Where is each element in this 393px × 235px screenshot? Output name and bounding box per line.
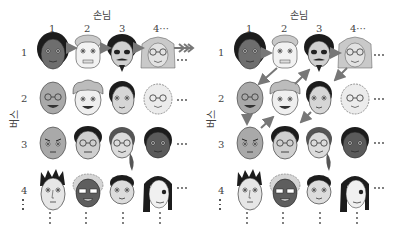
guests-header: 손님 [290,7,308,22]
face-r4c1 [40,169,65,210]
row-label-1: 1 [21,47,27,58]
face-r2c1 [40,82,66,114]
column-label-3: 3 [316,23,322,34]
left-panel: 손님 1 2 3 4··· 1 2 3 4 버스 [0,0,196,235]
face-r2c4 [144,84,172,114]
row-continuation-dots [22,199,24,213]
face-r2c3 [109,81,135,114]
row-label-4: 4 [21,185,27,196]
row1-arrows [68,44,193,52]
face-r4c2 [73,174,103,207]
guests-header: 손님 [93,7,111,22]
column-label-1: 1 [246,23,252,34]
face-r1c3 [107,34,137,72]
face-r4c4 [143,176,172,212]
row-label-1: 1 [218,47,224,58]
row-label-2: 2 [21,93,27,104]
column-label-1: 1 [49,23,55,34]
column-label-3: 3 [119,23,125,34]
row-label-3: 3 [218,139,224,150]
column-ellipsis [49,212,161,224]
face-r3c4 [144,127,172,158]
column-label-4: 4··· [153,23,169,34]
column-label-4: 4··· [350,23,366,34]
row-label-3: 3 [21,139,27,150]
column-label-2: 2 [281,23,287,34]
face-r1c4 [141,37,175,68]
row-label-4: 4 [218,185,224,196]
bus-axis-label: 버스 [6,110,21,128]
column-label-2: 2 [84,23,90,34]
face-r2c2 [73,80,103,115]
bus-axis-label: 버스 [203,110,218,128]
row-ellipsis [177,59,187,189]
right-panel: 손님 1 2 3 4··· 1 2 3 4 버스 [197,0,393,235]
face-r1c2 [75,35,101,68]
row-label-2: 2 [218,93,224,104]
face-r4c3 [110,175,134,204]
face-r1c1 [37,32,69,69]
faces-grid [0,0,196,235]
zigzag-arrows [247,53,347,128]
face-r3c2 [74,126,102,159]
face-r3c3 [109,127,135,171]
row-continuation-dots [219,199,221,213]
faces-grid [197,0,393,235]
face-r3c1 [40,127,66,159]
